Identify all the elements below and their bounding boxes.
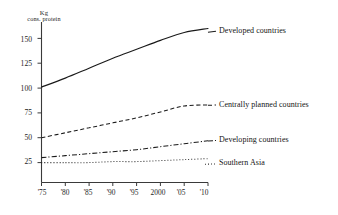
series-label-developing-countries: Developing countries [219, 135, 289, 144]
series-line-centrally-planned-countries [42, 105, 209, 138]
series-label-centrally-planned-countries: Centrally planned countries [219, 100, 309, 109]
leader-line-developing-countries [208, 141, 216, 142]
protein-consumption-line-chart: Kg cons. protein 150 125 100 75 50 25 '7… [0, 0, 338, 215]
series-line-developed-countries [42, 28, 209, 87]
y-axis-ticks [38, 38, 42, 162]
series-line-southern-asia [42, 159, 209, 163]
series-label-developed-countries: Developed countries [219, 26, 286, 35]
leader-line-developed-countries [208, 31, 216, 32]
series-line-developing-countries [42, 141, 209, 158]
series-label-southern-asia: Southern Asia [219, 158, 265, 167]
